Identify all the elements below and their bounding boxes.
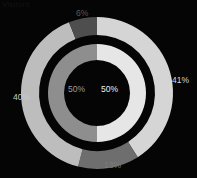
outer-slice-label-13: 13% [104,161,121,170]
outer-ring-group [21,17,173,169]
outer-slice-label-40: 40% [13,93,30,102]
inner-slice-label-left-50: 50% [68,85,85,94]
donut-svg [0,0,197,178]
outer-slice-label-6: 6% [76,9,88,18]
chart-canvas: Visitors 41% 13% 40% 6% 50% 50% [0,0,197,178]
inner-slice-label-right-50: 50% [101,85,118,94]
inner-ring-group [48,44,146,142]
nested-donut-chart: 41% 13% 40% 6% 50% 50% [0,0,197,178]
outer-slice-label-41: 41% [172,76,189,85]
